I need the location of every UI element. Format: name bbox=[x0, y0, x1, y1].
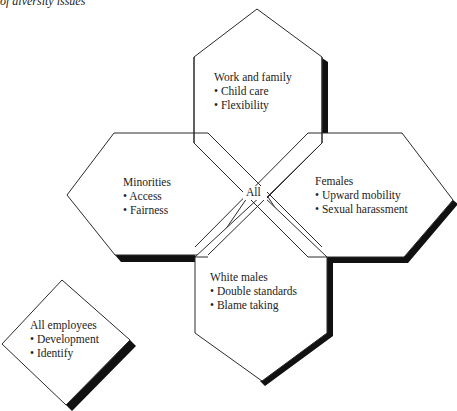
group-item: • Fairness bbox=[123, 203, 171, 217]
group-all-employees: All employees • Development • Identify bbox=[30, 318, 99, 360]
group-item: • Identify bbox=[30, 346, 99, 360]
group-white-males: White males • Double standards • Blame t… bbox=[210, 270, 297, 312]
group-item: • Flexibility bbox=[214, 98, 292, 112]
group-item: • Access bbox=[123, 189, 171, 203]
center-label-all: All bbox=[246, 186, 261, 198]
group-title: Females bbox=[315, 174, 408, 188]
group-item: • Child care bbox=[214, 84, 292, 98]
group-title: Work and family bbox=[214, 70, 292, 84]
group-title: Minorities bbox=[123, 175, 171, 189]
group-females: Females • Upward mobility • Sexual haras… bbox=[315, 174, 408, 216]
group-title: All employees bbox=[30, 318, 99, 332]
group-item: • Upward mobility bbox=[315, 188, 408, 202]
group-work-family: Work and family • Child care • Flexibili… bbox=[214, 70, 292, 112]
group-minorities: Minorities • Access • Fairness bbox=[123, 175, 171, 217]
group-item: • Blame taking bbox=[210, 298, 297, 312]
group-title: White males bbox=[210, 270, 297, 284]
group-item: • Sexual harassment bbox=[315, 202, 408, 216]
group-item: • Development bbox=[30, 332, 99, 346]
group-item: • Double standards bbox=[210, 284, 297, 298]
